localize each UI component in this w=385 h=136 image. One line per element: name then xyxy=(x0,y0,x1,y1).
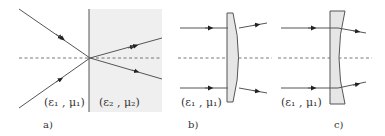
arrowhead-icon xyxy=(253,25,258,26)
incident-ray-upper xyxy=(19,9,90,58)
panel-b: (ε₁ , μ₁) b) xyxy=(178,13,272,130)
figure: (ε₁ , μ₁) (ε₂ , μ₂) a) (ε₁ , μ₁) b) (ε₁ … xyxy=(0,0,385,136)
concave-lens xyxy=(330,11,345,104)
panel-caption: a) xyxy=(43,119,53,130)
outgoing-ray-upper xyxy=(338,28,366,33)
arrowhead-icon xyxy=(353,31,358,32)
convex-lens xyxy=(227,13,239,102)
medium-label: (ε₁ , μ₁) xyxy=(181,96,222,109)
arrowhead-icon xyxy=(56,79,61,82)
medium-1-label: (ε₁ , μ₁) xyxy=(44,96,85,109)
arrowhead-icon xyxy=(253,91,258,92)
outgoing-ray-lower xyxy=(338,82,366,88)
medium-2-label: (ε₂ , μ₂) xyxy=(99,96,140,109)
panel-caption: b) xyxy=(188,119,198,130)
panel-caption: c) xyxy=(334,119,344,130)
panel-c: (ε₁ , μ₁) c) xyxy=(278,11,372,130)
panel-a: (ε₁ , μ₁) (ε₂ , μ₂) a) xyxy=(19,9,162,130)
medium-label: (ε₁ , μ₁) xyxy=(281,96,322,109)
